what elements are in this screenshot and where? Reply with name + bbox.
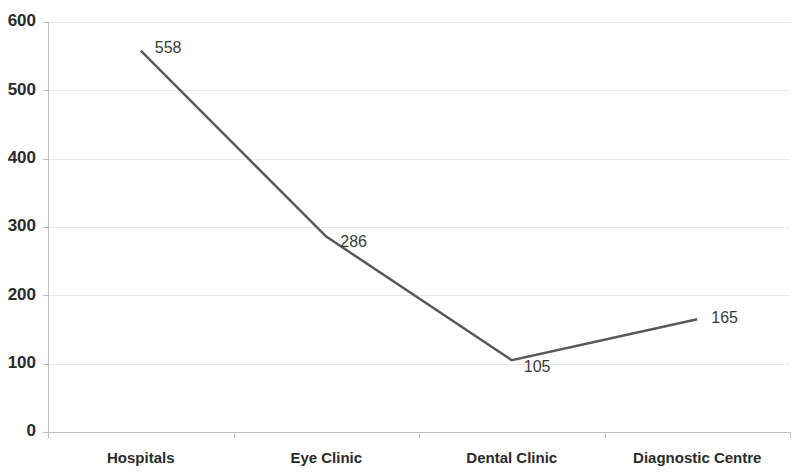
y-axis-label-600: 600 [8, 11, 36, 30]
y-axis-label-400: 400 [8, 148, 36, 167]
chart-canvas: 0100200300400500600 558286105165 Hospita… [0, 0, 800, 473]
x-axis-category-3: Diagnostic Centre [633, 449, 761, 466]
data-point-label-1: 286 [340, 233, 367, 250]
chart-background [0, 0, 800, 473]
data-point-label-2: 105 [524, 358, 551, 375]
y-axis-label-100: 100 [8, 353, 36, 372]
data-point-label-0: 558 [155, 39, 182, 56]
y-axis-label-200: 200 [8, 285, 36, 304]
x-axis-category-0: Hospitals [107, 449, 175, 466]
line-chart-figure: 0100200300400500600 558286105165 Hospita… [0, 0, 800, 473]
x-axis-category-1: Eye Clinic [290, 449, 362, 466]
y-axis-label-500: 500 [8, 80, 36, 99]
data-point-label-3: 165 [711, 309, 738, 326]
x-axis-category-2: Dental Clinic [466, 449, 557, 466]
y-axis-label-300: 300 [8, 216, 36, 235]
y-axis-label-0: 0 [27, 421, 36, 440]
